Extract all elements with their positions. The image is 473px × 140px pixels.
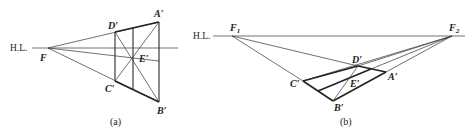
label-e: E′ — [349, 78, 360, 89]
edge-da — [358, 66, 386, 72]
label-b: B′ — [156, 105, 167, 116]
vanishing-line-f2mid — [371, 36, 452, 69]
label-c: C′ — [290, 78, 300, 89]
label-a: A′ — [153, 8, 164, 19]
label-a: A′ — [387, 71, 398, 82]
edge-ab — [333, 72, 386, 101]
label-c: C′ — [105, 83, 115, 94]
vanishing-line-f1c — [232, 36, 303, 81]
label-f: F — [39, 52, 47, 63]
label-f1: F1 — [229, 22, 240, 35]
label-b: B′ — [333, 102, 344, 113]
label-d: D′ — [107, 20, 118, 31]
caption-b: (b) — [340, 116, 352, 128]
horizon-label-a: H.L. — [10, 43, 27, 53]
label-e: E′ — [138, 53, 149, 64]
horizon-label-b: H.L. — [193, 31, 210, 41]
diagram-b: H.L. F1 F2 D′ A′ E′ C′ B′ (b) — [193, 22, 465, 128]
label-f2: F2 — [448, 22, 460, 35]
label-d: D′ — [351, 54, 362, 65]
middle-line — [318, 69, 371, 91]
perspective-diagrams: H.L. F D′ A′ E′ C′ B′ (a) H.L. F1 F2 D′ … — [0, 0, 473, 140]
caption-a: (a) — [110, 116, 121, 128]
diagram-a: H.L. F D′ A′ E′ C′ B′ (a) — [10, 8, 178, 128]
vanishing-line-f1d — [232, 36, 358, 66]
